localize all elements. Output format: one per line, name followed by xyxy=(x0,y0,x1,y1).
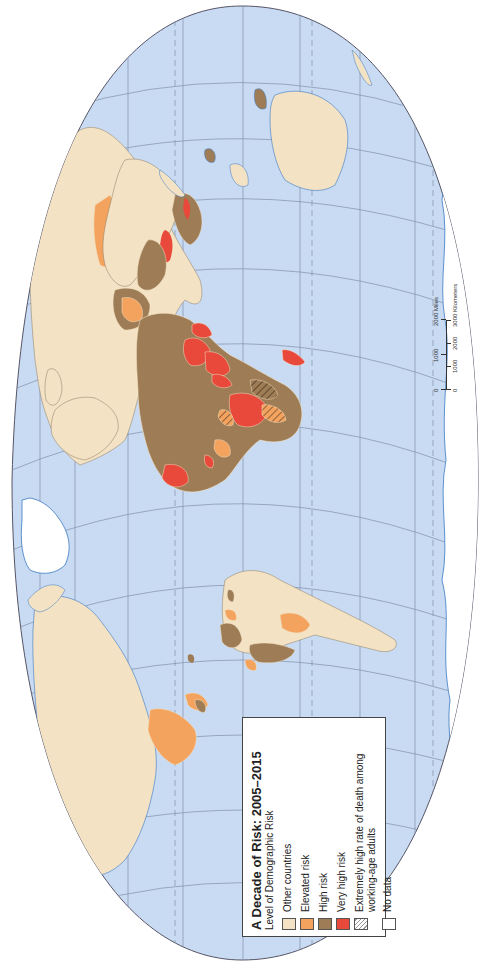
legend-item-other: Other countries xyxy=(282,726,296,930)
swatch-very-high xyxy=(336,918,350,930)
legend-label-very-high: Very high risk xyxy=(336,852,348,912)
swatch-elevated xyxy=(300,918,314,930)
swatch-other xyxy=(282,918,296,930)
legend-item-extreme: Extremely high rate of death among worki… xyxy=(354,726,378,930)
scale-line xyxy=(446,320,447,390)
legend-title: A Decade of Risk: 2005–2015 xyxy=(249,726,264,930)
scale-bar-content: 0 1000 2000 Miles 0 1000 2000 3000 Kilom… xyxy=(432,250,462,400)
scale-tick xyxy=(446,389,451,390)
scale-tick xyxy=(446,320,451,321)
legend-item-very-high: Very high risk xyxy=(336,726,350,930)
legend-subtitle: Level of Demographic Risk xyxy=(264,726,276,930)
legend-item-no-data: No data xyxy=(382,726,396,930)
scale-miles-1000: 1000 xyxy=(433,349,439,362)
scale-km-1000: 1000 xyxy=(452,360,458,373)
legend-content: A Decade of Risk: 2005–2015 Level of Dem… xyxy=(245,720,385,936)
scale-miles-0: 0 xyxy=(433,389,439,392)
legend-label-high: High risk xyxy=(318,873,330,912)
scale-tick xyxy=(441,354,446,355)
legend-label-elevated: Elevated risk xyxy=(300,855,312,912)
scale-km-0: 0 xyxy=(452,389,458,392)
legend-label-no-data: No data xyxy=(382,877,394,912)
swatch-hatch xyxy=(354,918,368,930)
legend-item-elevated: Elevated risk xyxy=(300,726,314,930)
scale-km-2000: 2000 xyxy=(452,337,458,350)
scale-bar: 0 1000 2000 Miles 0 1000 2000 3000 Kilom… xyxy=(432,250,462,400)
scale-tick xyxy=(446,366,451,367)
scale-km-3000: 3000 Kilometers xyxy=(452,284,458,327)
legend: A Decade of Risk: 2005–2015 Level of Dem… xyxy=(242,717,386,937)
legend-label-extreme: Extremely high rate of death among worki… xyxy=(354,726,378,912)
legend-item-high: High risk xyxy=(318,726,332,930)
swatch-no-data xyxy=(382,918,396,930)
swatch-high xyxy=(318,918,332,930)
legend-label-other: Other countries xyxy=(282,844,294,912)
scale-miles-2000: 2000 Miles xyxy=(433,297,439,326)
scale-tick xyxy=(446,343,451,344)
